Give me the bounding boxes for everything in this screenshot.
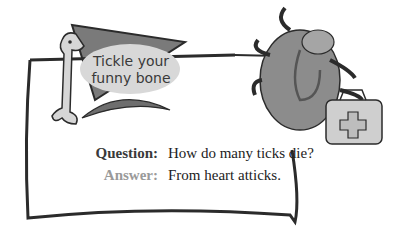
question-row: Question: How do many ticks die? [70,143,314,163]
illustration [0,0,410,235]
question-label: Question: [70,143,168,163]
joke-card: Tickle your funny bone Question: How do … [0,0,410,235]
question-text: How do many ticks die? [168,143,314,163]
speech-bubble-text: Tickle your funny bone [86,53,176,87]
bone-character-icon [52,33,84,124]
answer-label: Answer: [70,165,168,185]
bubble-line-2: funny bone [86,70,176,87]
bubble-line-1: Tickle your [86,53,176,70]
answer-row: Answer: From heart atticks. [70,165,314,185]
joke-qa: Question: How do many ticks die? Answer:… [70,143,314,187]
answer-text: From heart atticks. [168,165,281,185]
feather-icon [82,100,170,118]
